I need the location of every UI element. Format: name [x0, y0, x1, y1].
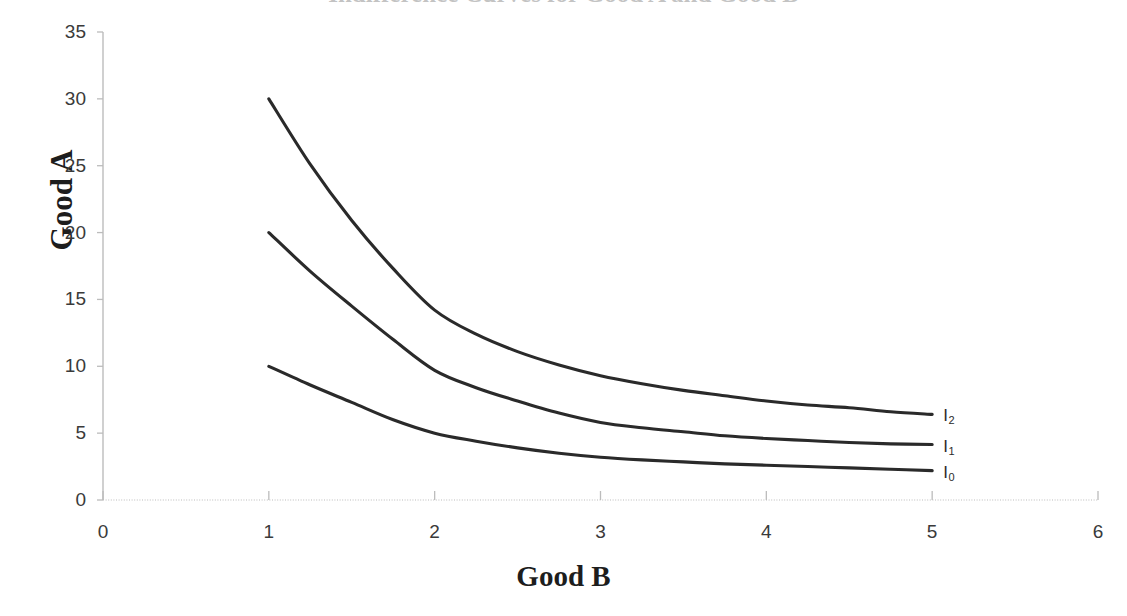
x-tick-label: 4 — [761, 521, 772, 543]
curve-I0 — [269, 366, 932, 470]
y-tick-label: 15 — [14, 288, 86, 310]
curve-label-I2: I2 — [943, 406, 954, 426]
curve-label-subscript: 0 — [948, 471, 954, 483]
axes-layer — [97, 32, 1098, 500]
y-tick-label: 5 — [14, 422, 86, 444]
x-tick-label: 2 — [429, 521, 440, 543]
y-tick-label: 0 — [14, 489, 86, 511]
y-tick-label: 30 — [14, 88, 86, 110]
x-axis-title: Good B — [0, 560, 1127, 593]
curve-label-subscript: 1 — [948, 445, 954, 457]
plot-canvas — [0, 0, 1127, 616]
x-tick-label: 5 — [927, 521, 938, 543]
curve-label-I1: I1 — [943, 437, 954, 457]
y-tick-label: 20 — [14, 222, 86, 244]
x-tick-label: 0 — [98, 521, 109, 543]
curve-I1 — [269, 233, 932, 445]
curve-I2 — [269, 99, 932, 415]
indifference-curve-chart: Indifference Curves for Good A and Good … — [0, 0, 1127, 616]
x-tick-label: 3 — [595, 521, 606, 543]
x-tick-label: 6 — [1093, 521, 1104, 543]
y-tick-label: 25 — [14, 155, 86, 177]
curve-label-I0: I0 — [943, 463, 954, 483]
x-tick-label: 1 — [264, 521, 275, 543]
curve-label-subscript: 2 — [948, 414, 954, 426]
curves-layer — [269, 99, 932, 471]
y-tick-label: 35 — [14, 21, 86, 43]
y-tick-label: 10 — [14, 355, 86, 377]
